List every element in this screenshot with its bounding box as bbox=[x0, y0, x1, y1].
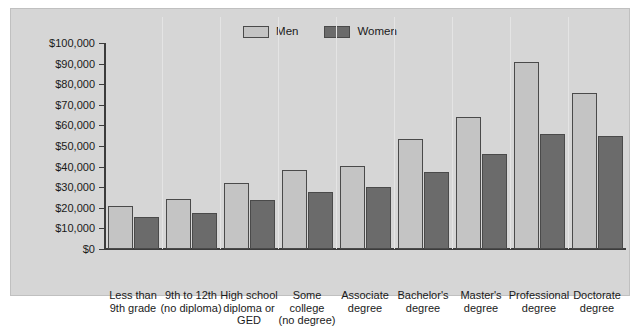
bar-women bbox=[134, 217, 159, 249]
bar-men bbox=[456, 117, 481, 249]
group-separator bbox=[568, 17, 569, 249]
y-axis-tick-label: $100,000 bbox=[49, 37, 95, 49]
y-axis-tick bbox=[99, 125, 105, 126]
y-axis-tick-label: $10,000 bbox=[55, 222, 95, 234]
y-axis-tick-label: $50,000 bbox=[55, 140, 95, 152]
bar-men bbox=[166, 199, 191, 249]
y-axis-tick bbox=[99, 84, 105, 85]
bar-group bbox=[572, 43, 623, 249]
bar-women bbox=[366, 187, 391, 249]
bar-men bbox=[514, 62, 539, 249]
y-axis-tick-label: $40,000 bbox=[55, 161, 95, 173]
y-axis-tick bbox=[99, 167, 105, 168]
group-separator bbox=[162, 17, 163, 249]
legend-swatch-men bbox=[243, 26, 269, 38]
bar-women bbox=[308, 192, 333, 249]
bar-group bbox=[514, 43, 565, 249]
bar-men bbox=[224, 183, 249, 249]
x-axis-label: Doctorate degree bbox=[562, 289, 632, 314]
legend-entry-men: Men bbox=[243, 26, 298, 38]
group-separator bbox=[336, 17, 337, 249]
y-axis-tick bbox=[99, 105, 105, 106]
group-separator bbox=[510, 17, 511, 249]
bar-women bbox=[540, 134, 565, 249]
y-axis-tick bbox=[99, 146, 105, 147]
bar-men bbox=[282, 170, 307, 249]
y-axis-tick-label: $80,000 bbox=[55, 78, 95, 90]
bar-women bbox=[424, 172, 449, 249]
bar-women bbox=[192, 213, 217, 249]
bar-women bbox=[250, 200, 275, 249]
bar-men bbox=[398, 139, 423, 249]
bar-men bbox=[572, 93, 597, 249]
bar-group bbox=[398, 43, 449, 249]
y-axis-tick-label: $90,000 bbox=[55, 58, 95, 70]
bar-men bbox=[340, 166, 365, 249]
chart-legend: Men Women bbox=[11, 26, 629, 38]
y-axis-tick-label: $20,000 bbox=[55, 202, 95, 214]
bar-group bbox=[282, 43, 333, 249]
bar-women bbox=[482, 154, 507, 249]
bar-group bbox=[166, 43, 217, 249]
bar-group bbox=[108, 43, 159, 249]
y-axis-tick bbox=[99, 228, 105, 229]
group-separator bbox=[278, 17, 279, 249]
legend-swatch-women bbox=[324, 26, 350, 38]
plot-area: $0$10,000$20,000$30,000$40,000$50,000$60… bbox=[104, 43, 626, 249]
y-axis-tick-label: $0 bbox=[83, 243, 95, 255]
bar-group bbox=[456, 43, 507, 249]
bar-group bbox=[224, 43, 275, 249]
chart-panel: Men Women $0$10,000$20,000$30,000$40,000… bbox=[10, 8, 630, 296]
group-separator bbox=[394, 17, 395, 249]
y-axis-tick-label: $60,000 bbox=[55, 119, 95, 131]
bar-men bbox=[108, 206, 133, 249]
y-axis-tick bbox=[99, 64, 105, 65]
bar-women bbox=[598, 136, 623, 249]
legend-label-women: Women bbox=[357, 26, 396, 38]
y-axis-tick bbox=[99, 208, 105, 209]
y-axis-tick-label: $30,000 bbox=[55, 181, 95, 193]
y-axis-tick bbox=[99, 249, 105, 250]
y-axis-tick-label: $70,000 bbox=[55, 99, 95, 111]
legend-label-men: Men bbox=[276, 26, 298, 38]
group-separator bbox=[220, 17, 221, 249]
bar-group bbox=[340, 43, 391, 249]
group-separator bbox=[452, 17, 453, 249]
y-axis-tick bbox=[99, 43, 105, 44]
y-axis-tick bbox=[99, 187, 105, 188]
